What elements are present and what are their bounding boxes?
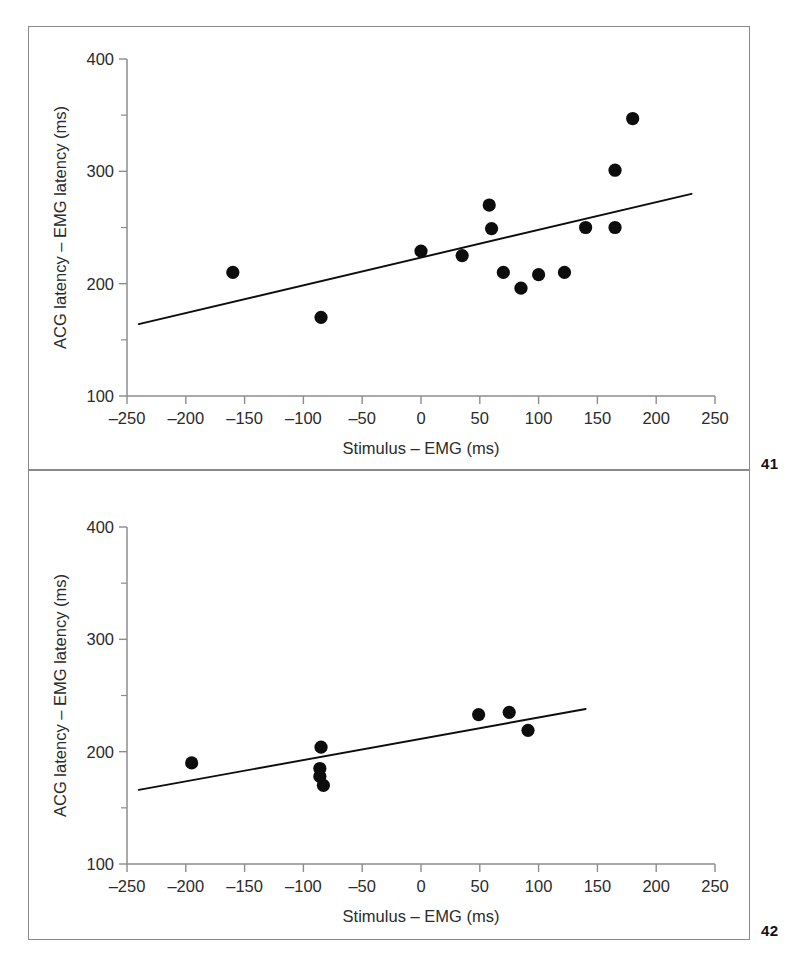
data-point xyxy=(314,741,327,754)
data-point xyxy=(483,198,496,211)
x-tick-label: 50 xyxy=(471,877,489,895)
x-tick-label: 250 xyxy=(701,877,729,895)
axes-top xyxy=(119,59,715,404)
data-point xyxy=(514,282,527,295)
y-tick-label: 100 xyxy=(86,855,114,873)
x-tick-label: 250 xyxy=(701,409,729,427)
x-tick-label: 200 xyxy=(642,877,670,895)
data-point xyxy=(317,779,330,792)
fit-line xyxy=(139,194,692,324)
x-tick-label: –150 xyxy=(226,877,263,895)
datapoints-top xyxy=(226,112,639,324)
data-point xyxy=(414,244,427,257)
x-tick-label: –200 xyxy=(167,409,204,427)
figure-container: 100200300400–250–200–150–100–50050100150… xyxy=(0,0,808,967)
x-tick-label: 150 xyxy=(584,409,612,427)
x-tick-label: 0 xyxy=(416,409,425,427)
data-point xyxy=(497,266,510,279)
data-point xyxy=(226,266,239,279)
y-tick-label: 300 xyxy=(86,162,114,180)
data-point xyxy=(456,249,469,262)
x-tick-label: –100 xyxy=(285,409,322,427)
x-tick-label: –200 xyxy=(167,877,204,895)
data-point xyxy=(521,724,534,737)
x-tick-label: –50 xyxy=(348,877,376,895)
scatter-svg-top: 100200300400–250–200–150–100–50050100150… xyxy=(28,26,750,470)
data-point xyxy=(579,221,592,234)
y-tick-label: 300 xyxy=(86,630,114,648)
y-tick-label: 200 xyxy=(86,275,114,293)
panel-number-41: 41 xyxy=(761,455,778,472)
x-tick-label: 150 xyxy=(584,877,612,895)
scatter-plot-top: 100200300400–250–200–150–100–50050100150… xyxy=(28,26,750,470)
x-tick-label: –250 xyxy=(109,409,146,427)
x-tick-label: –150 xyxy=(226,409,263,427)
regression-line-top xyxy=(139,194,692,324)
y-tick-label: 400 xyxy=(86,518,114,536)
data-point xyxy=(558,266,571,279)
data-point xyxy=(608,164,621,177)
data-point xyxy=(503,706,516,719)
axes-bottom xyxy=(119,527,715,872)
x-tick-label: –250 xyxy=(109,877,146,895)
data-point xyxy=(314,311,327,324)
y-axis-title: ACG latency – EMG latency (ms) xyxy=(51,574,69,817)
y-tick-label: 400 xyxy=(86,50,114,68)
x-tick-label: 100 xyxy=(525,877,553,895)
x-tick-label: 200 xyxy=(642,409,670,427)
x-axis-title: Stimulus – EMG (ms) xyxy=(343,907,500,925)
x-tick-label: 0 xyxy=(416,877,425,895)
x-tick-label: –100 xyxy=(285,877,322,895)
fit-line xyxy=(139,709,586,790)
data-point xyxy=(472,708,485,721)
panel-number-42: 42 xyxy=(761,922,778,939)
data-point xyxy=(626,112,639,125)
data-point xyxy=(532,268,545,281)
y-tick-label: 100 xyxy=(86,387,114,405)
data-point xyxy=(608,221,621,234)
y-axis-title: ACG latency – EMG latency (ms) xyxy=(51,106,69,349)
datapoints-bottom xyxy=(185,706,535,792)
data-point xyxy=(185,756,198,769)
x-tick-label: 50 xyxy=(471,409,489,427)
scatter-plot-bottom: 100200300400–250–200–150–100–50050100150… xyxy=(28,470,750,940)
x-axis-title: Stimulus – EMG (ms) xyxy=(343,439,500,457)
x-tick-label: 100 xyxy=(525,409,553,427)
y-tick-label: 200 xyxy=(86,743,114,761)
scatter-svg-bottom: 100200300400–250–200–150–100–50050100150… xyxy=(28,470,750,940)
data-point xyxy=(485,222,498,235)
regression-line-bottom xyxy=(139,709,586,790)
x-tick-label: –50 xyxy=(348,409,376,427)
